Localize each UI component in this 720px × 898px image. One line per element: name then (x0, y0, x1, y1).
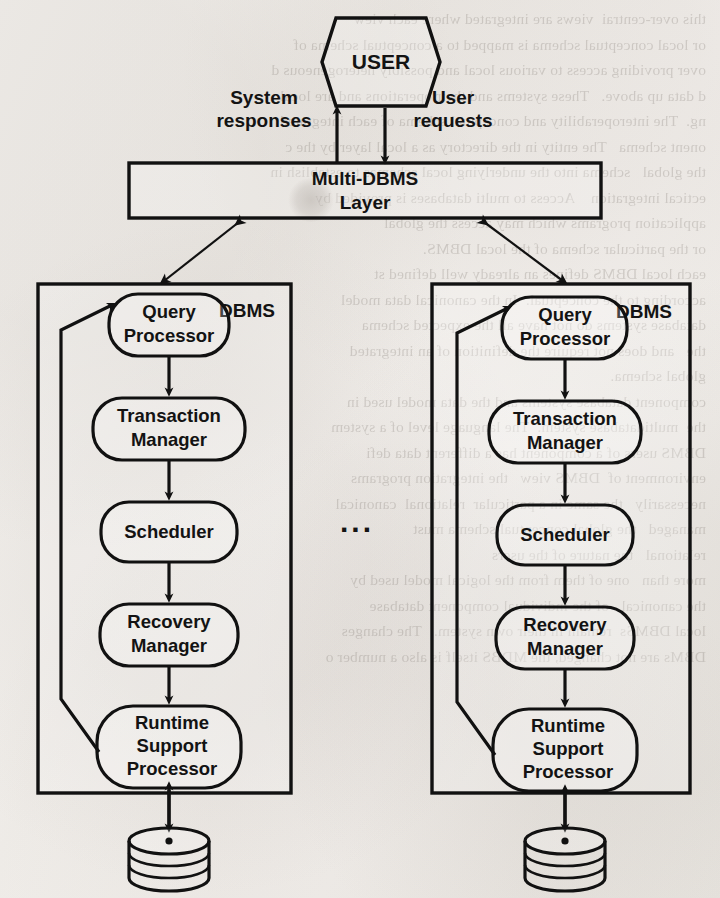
user-label: USER (352, 50, 410, 73)
left-rsp-label-line2: Support (137, 735, 208, 756)
right-rsp-label-line1: Runtime (531, 715, 605, 736)
left-query-processor-label-line2: Processor (124, 325, 215, 346)
left-recovery-manager-label-line2: Manager (131, 635, 207, 656)
right-dbms-instance: DBMS Query Processor Transaction Manager… (432, 284, 690, 891)
figure-page: this over-centrai views are integrated w… (0, 0, 720, 898)
right-recovery-manager-node: Recovery Manager (496, 607, 634, 669)
left-transaction-manager-label-line1: Transaction (117, 405, 221, 426)
left-scheduler-node: Scheduler (101, 502, 237, 562)
right-query-processor-node: Query Processor (502, 297, 627, 359)
right-query-processor-label-line2: Processor (520, 328, 611, 349)
right-recovery-manager-label-line2: Manager (527, 638, 603, 659)
layer-to-left-dbms-connector (164, 222, 239, 281)
left-recovery-manager-node: Recovery Manager (100, 604, 238, 666)
right-query-processor-label-line1: Query (538, 304, 592, 325)
right-recovery-manager-label-line1: Recovery (523, 614, 607, 635)
system-responses-label-line2: responses (216, 110, 311, 131)
right-rsp-label-line3: Processor (523, 761, 614, 782)
right-transaction-manager-label-line2: Manager (527, 432, 603, 453)
left-database-disk (129, 828, 209, 891)
left-query-processor-node: Query Processor (109, 294, 229, 356)
right-transaction-manager-node: Transaction Manager (489, 401, 641, 463)
left-scheduler-label: Scheduler (124, 521, 213, 542)
multi-dbms-layer-node: Multi-DBMS Layer (129, 163, 601, 218)
multi-dbms-architecture-diagram: USER System responses User requests Mult… (0, 0, 720, 898)
user-requests-label-line1: User (432, 87, 475, 108)
left-dbms-instance: DBMS Query Processor Transaction Manager… (38, 284, 291, 891)
left-rsp-label-line1: Runtime (135, 712, 209, 733)
right-database-disk (525, 828, 605, 891)
right-transaction-manager-label-line1: Transaction (513, 408, 617, 429)
right-rsp-label-line2: Support (533, 738, 604, 759)
system-responses-label-line1: System (230, 87, 298, 108)
multi-dbms-layer-label-line2: Layer (340, 192, 391, 213)
user-node: USER (322, 18, 440, 106)
left-rsp-label-line3: Processor (127, 758, 218, 779)
right-scheduler-node: Scheduler (497, 505, 633, 565)
user-requests-label-line2: requests (413, 110, 492, 131)
layer-to-right-dbms-connector (484, 222, 563, 281)
left-transaction-manager-label-line2: Manager (131, 429, 207, 450)
left-query-processor-label-line1: Query (142, 301, 196, 322)
more-dbms-ellipsis: ... (340, 505, 374, 538)
right-scheduler-label: Scheduler (520, 524, 609, 545)
left-recovery-manager-label-line1: Recovery (127, 611, 211, 632)
multi-dbms-layer-label-line1: Multi-DBMS (312, 168, 419, 189)
left-runtime-support-processor-node: Runtime Support Processor (97, 706, 241, 788)
right-runtime-support-processor-node: Runtime Support Processor (493, 709, 637, 791)
left-transaction-manager-node: Transaction Manager (93, 398, 245, 460)
